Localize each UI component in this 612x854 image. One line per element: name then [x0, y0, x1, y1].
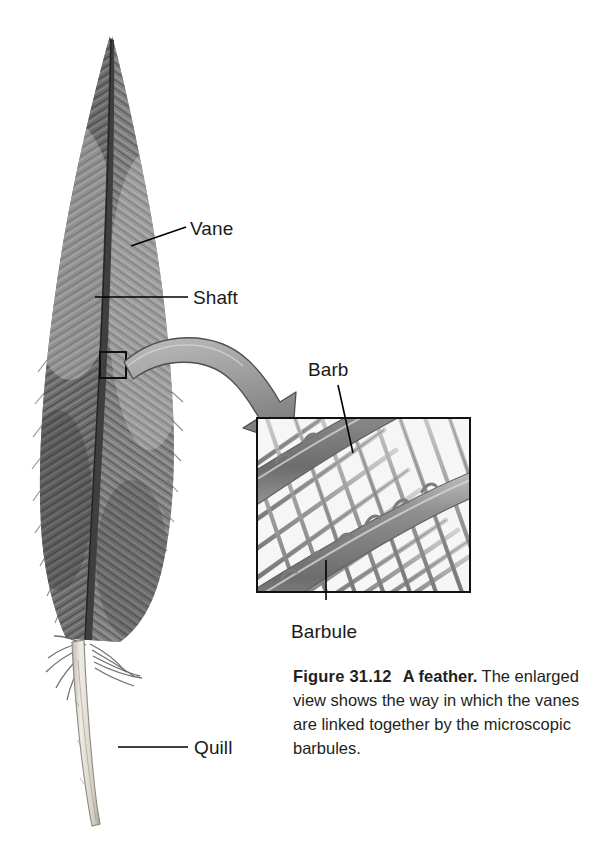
figure-caption: Figure 31.12A feather. The enlarged view…: [293, 664, 589, 760]
feather-down-wisps: [46, 636, 142, 700]
feather-drawing: [20, 20, 210, 826]
figure-title: A feather.: [403, 667, 478, 685]
figure-number: Figure 31.12: [293, 667, 392, 685]
label-quill: Quill: [194, 738, 233, 757]
label-barb: Barb: [308, 360, 349, 379]
label-barbule: Barbule: [291, 622, 357, 641]
label-shaft: Shaft: [193, 288, 238, 307]
figure-container: Vane Shaft Barb Barbule Quill Figure 31.…: [0, 0, 612, 854]
label-vane: Vane: [190, 219, 233, 238]
